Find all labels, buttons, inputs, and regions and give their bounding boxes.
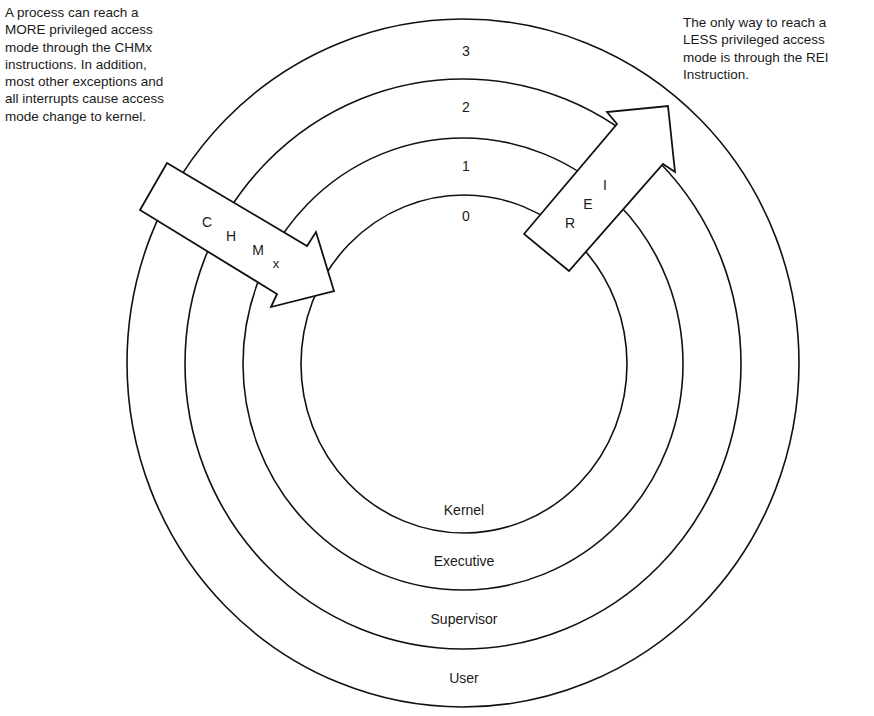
ring-number-3: 3 — [462, 43, 470, 59]
rei-letter-e: E — [583, 196, 592, 212]
rei-arrow — [524, 106, 675, 271]
chmx-arrow — [140, 163, 334, 307]
access-mode-rings-diagram: 3 2 1 0 Kernel Executive Supervisor User… — [0, 0, 874, 716]
mode-label-user: User — [449, 670, 479, 686]
mode-label-kernel: Kernel — [444, 502, 484, 518]
chmx-letter-x: x — [273, 256, 280, 271]
ring-number-0: 0 — [462, 208, 470, 224]
ring-number-2: 2 — [462, 99, 470, 115]
chmx-letter-m: M — [252, 242, 264, 258]
chmx-letter-c: C — [202, 214, 212, 230]
ring-number-1: 1 — [462, 158, 470, 174]
mode-label-executive: Executive — [434, 553, 495, 569]
mode-label-supervisor: Supervisor — [431, 611, 498, 627]
chmx-letter-h: H — [226, 228, 236, 244]
rei-letter-i: I — [603, 177, 607, 193]
rei-letter-r: R — [565, 215, 575, 231]
ring-user — [127, 19, 799, 707]
